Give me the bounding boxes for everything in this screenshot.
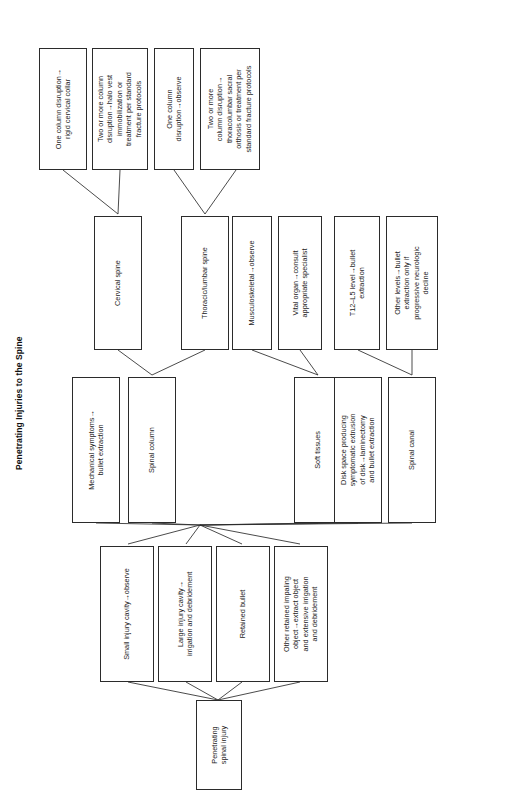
node-label: Other levels→bullet extraction only if p… xyxy=(393,219,431,347)
node-label: Small injury cavity→observe xyxy=(122,549,131,679)
node-small-injury-cavity[interactable]: Small injury cavity→observe xyxy=(100,546,154,682)
link-root-l2-1 xyxy=(186,682,218,700)
node-spinal-canal[interactable]: Spinal canal xyxy=(388,377,436,523)
node-thoracic-lumbar-spine[interactable]: Thoracic/lumbar spine xyxy=(181,216,229,350)
node-vital-organ-consult[interactable]: Vital organ→consult appropriate speciali… xyxy=(278,216,322,350)
node-label: Soft tissues xyxy=(313,380,322,520)
flowchart-canvas: Penetrating Injuries to the Spine Penetr… xyxy=(0,0,510,805)
node-disk-space-extrusion[interactable]: Disk space producing symptomatic extrusi… xyxy=(334,377,382,523)
node-other-levels-bullet-extraction[interactable]: Other levels→bullet extraction only if p… xyxy=(386,216,438,350)
node-root[interactable]: Penetrating spinal injury xyxy=(196,700,242,790)
node-label: Retained bullet xyxy=(238,549,247,679)
node-label: Disk space producing symptomatic extrusi… xyxy=(339,380,377,520)
node-label: Two or more column disruption→ thoracolu… xyxy=(206,51,253,167)
link-l3-1-l4-1 xyxy=(152,350,205,375)
node-one-column-cervical-collar[interactable]: One column disruption→ rigid cervical co… xyxy=(39,48,87,170)
link-l3-2-l4-2 xyxy=(252,350,318,375)
node-mechanical-symptoms[interactable]: Mechanical symptoms→ bullet extraction xyxy=(72,377,120,523)
link-l4-1-l5-3 xyxy=(205,170,236,214)
link-l3-4-l4-4 xyxy=(358,350,412,375)
node-large-injury-cavity[interactable]: Large injury cavity→ irrigation and debr… xyxy=(158,546,212,682)
node-label: Other retained impaling object→extract o… xyxy=(282,549,320,679)
node-label: Spinal column xyxy=(147,380,156,520)
node-spinal-column[interactable]: Spinal column xyxy=(128,377,176,523)
node-two-or-more-column-halo-vest[interactable]: Two or more column disruption→halo vest … xyxy=(92,48,148,170)
link-l2-0-l3-1 xyxy=(128,525,200,544)
link-l2-3-l3-4 xyxy=(200,525,300,544)
link-l2-2-l3-2 xyxy=(200,525,242,544)
node-root-label: Penetrating spinal injury xyxy=(210,703,229,787)
node-cervical-spine[interactable]: Cervical spine xyxy=(94,216,142,350)
node-label: Vital organ→consult appropriate speciali… xyxy=(291,219,310,347)
node-label: Thoracic/lumbar spine xyxy=(200,219,209,347)
node-label: Cervical spine xyxy=(113,219,122,347)
link-root-l2-0 xyxy=(128,682,218,700)
link-l4-1-l5-2 xyxy=(174,170,205,214)
node-label: Large injury cavity→ irrigation and debr… xyxy=(176,549,195,679)
node-one-column-observe[interactable]: One column disruption→observe xyxy=(154,48,194,170)
link-l4-0-l5-0 xyxy=(63,170,118,214)
link-l4-0-l5-1 xyxy=(118,170,120,214)
node-label: T12–L5 level→bullet extraction xyxy=(348,219,367,347)
node-label: Spinal canal xyxy=(407,380,416,520)
node-label: One column disruption→ rigid cervical co… xyxy=(54,51,73,167)
node-t12-l5-bullet-extraction[interactable]: T12–L5 level→bullet extraction xyxy=(334,216,380,350)
node-label: Mechanical symptoms→ bullet extraction xyxy=(87,380,106,520)
node-retained-bullet[interactable]: Retained bullet xyxy=(216,546,270,682)
node-two-or-more-column-tlso[interactable]: Two or more column disruption→ thoracolu… xyxy=(200,48,260,170)
node-other-retained-impaling-object[interactable]: Other retained impaling object→extract o… xyxy=(274,546,328,682)
node-label: Musculoskeletal→observe xyxy=(247,219,256,347)
link-l3-1-l4-0 xyxy=(118,350,152,375)
node-label: Two or more column disruption→halo vest … xyxy=(96,51,143,167)
node-label: One column disruption→observe xyxy=(165,51,184,167)
node-musculoskeletal-observe[interactable]: Musculoskeletal→observe xyxy=(232,216,272,350)
